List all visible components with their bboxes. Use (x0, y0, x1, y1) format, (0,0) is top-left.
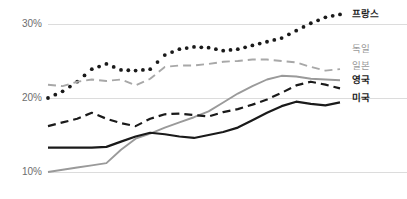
data-dot (243, 45, 247, 49)
data-dot (105, 62, 109, 66)
data-dot (134, 69, 138, 73)
data-dot (294, 29, 298, 33)
chart-container: 10%20%30% 프랑스독일일본영국미국 (0, 0, 407, 199)
legend-label-japan: 일본 (352, 60, 370, 71)
data-dot (229, 48, 233, 52)
data-dot (46, 96, 50, 100)
data-dot (316, 18, 320, 22)
data-dot (192, 45, 196, 49)
data-dot (214, 47, 218, 51)
data-dot (207, 46, 211, 50)
series-end-labels: 프랑스독일일본영국미국 (352, 8, 379, 103)
y-axis-label-30: 30% (22, 18, 42, 29)
legend-label-usa: 미국 (352, 92, 370, 103)
data-dot (331, 14, 335, 18)
data-dot (97, 65, 101, 69)
data-dot (119, 68, 123, 72)
line-chart: 10%20%30% 프랑스독일일본영국미국 (0, 0, 407, 199)
series-uk (48, 82, 340, 126)
legend-label-germany: 독일 (352, 43, 370, 54)
y-axis-tick-labels: 10%20%30% (22, 18, 42, 177)
data-dot (61, 89, 65, 93)
data-dot (83, 74, 87, 78)
data-dot (199, 45, 203, 49)
data-dot (280, 36, 284, 40)
data-dot (265, 40, 269, 44)
data-dot (272, 38, 276, 42)
data-dot (126, 68, 130, 72)
series-usa (48, 102, 340, 148)
data-dot (287, 32, 291, 36)
legend-label-france: 프랑스 (352, 8, 379, 19)
data-dot (302, 25, 306, 29)
data-dot (90, 67, 94, 71)
data-dot (258, 42, 262, 46)
series-lines (46, 12, 342, 172)
data-dot (170, 50, 174, 54)
data-dot (221, 49, 225, 53)
data-dot (185, 46, 189, 50)
data-dot (141, 68, 145, 72)
y-axis-label-20: 20% (22, 92, 42, 103)
data-dot (178, 47, 182, 51)
data-dot (53, 93, 57, 97)
data-dot (163, 53, 167, 57)
data-dot (309, 21, 313, 25)
data-dot (156, 60, 160, 64)
series-japan (48, 76, 340, 172)
y-axis-label-10: 10% (22, 166, 42, 177)
data-dot (236, 47, 240, 51)
series-germany (48, 60, 340, 87)
data-dot (338, 12, 342, 16)
data-dot (112, 65, 116, 69)
legend-label-uk: 영국 (352, 74, 370, 85)
data-dot (251, 44, 255, 48)
series-france (46, 12, 342, 99)
data-dot (148, 67, 152, 71)
data-dot (324, 15, 328, 19)
